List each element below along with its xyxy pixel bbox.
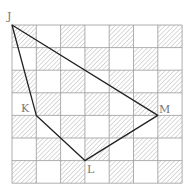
hatched-cell bbox=[36, 48, 60, 71]
hatched-cell bbox=[61, 70, 85, 93]
hatched-cell bbox=[36, 138, 60, 161]
hatched-cells bbox=[12, 25, 182, 183]
hatched-cell bbox=[109, 70, 133, 93]
hatched-cell bbox=[61, 161, 85, 184]
hatched-cell bbox=[61, 115, 85, 138]
hatched-cell bbox=[109, 161, 133, 184]
hatched-cell bbox=[12, 115, 36, 138]
vertex-label-m: M bbox=[159, 103, 170, 116]
hatched-cell bbox=[134, 138, 158, 161]
hatched-cell bbox=[85, 138, 109, 161]
hatched-cell bbox=[36, 93, 60, 116]
hatched-cell bbox=[85, 48, 109, 71]
hatched-cell bbox=[158, 115, 182, 138]
vertex-label-k: K bbox=[21, 102, 30, 115]
hatched-cell bbox=[109, 25, 133, 48]
hatched-cell bbox=[134, 93, 158, 116]
hatched-cell bbox=[158, 25, 182, 48]
hatched-cell bbox=[158, 161, 182, 184]
hatched-cell bbox=[109, 115, 133, 138]
hatched-cell bbox=[158, 70, 182, 93]
hatched-cell bbox=[61, 25, 85, 48]
hatched-cell bbox=[12, 161, 36, 184]
vertex-label-j: J bbox=[6, 10, 11, 23]
quadrilateral-on-grid-diagram: J K L M bbox=[0, 0, 191, 196]
vertex-label-l: L bbox=[87, 163, 95, 176]
hatched-cell bbox=[134, 48, 158, 71]
hatched-cell bbox=[85, 93, 109, 116]
hatched-cell bbox=[12, 70, 36, 93]
